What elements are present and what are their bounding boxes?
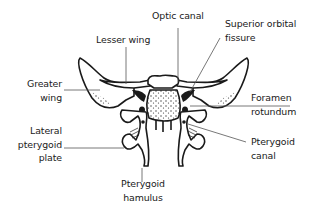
right-pterygoid-process	[178, 110, 206, 166]
label-foramen-rotundum: Foramen rotundum	[251, 91, 296, 118]
sphenoid-body	[147, 90, 180, 121]
label-lateral-pterygoid-plate: Lateral pterygoid plate	[8, 124, 62, 165]
label-optic-canal: Optic canal	[152, 9, 204, 23]
label-pterygoid-hamulus: Pterygoid hamulus	[116, 177, 170, 204]
left-pterygoid-process	[121, 110, 149, 166]
bone-drawing	[79, 58, 249, 166]
left-pterygoid-canal	[141, 120, 145, 124]
label-greater-wing: Greater wing	[20, 77, 62, 104]
label-lesser-wing: Lesser wing	[96, 33, 150, 47]
sphenoid-rostrum	[156, 120, 171, 132]
label-pterygoid-canal: Pterygoid canal	[251, 135, 295, 162]
right-pterygoid-canal	[182, 120, 186, 124]
label-superior-orbital-fissure: Superior orbital fissure	[225, 17, 296, 44]
sella-turcica	[148, 75, 179, 88]
